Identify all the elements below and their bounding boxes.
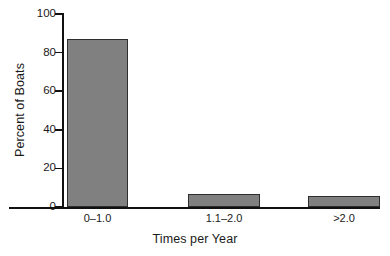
- y-axis-tick-mark: [55, 13, 62, 15]
- y-axis-tick-mark: [55, 90, 62, 92]
- y-tick-label: 100: [30, 8, 56, 19]
- x-tick-label: >2.0: [294, 211, 390, 225]
- bar: [308, 196, 380, 207]
- y-tick-label: 40: [30, 124, 56, 135]
- y-tick-label: 20: [30, 162, 56, 173]
- x-axis-line: [9, 207, 380, 209]
- bar: [188, 194, 260, 208]
- bar: [67, 39, 128, 207]
- y-tick-label: 60: [30, 85, 56, 96]
- bar-chart: Percent of Boats 100 80 60 40 20 0 0–1.0…: [0, 0, 390, 256]
- plot-area: [62, 14, 380, 207]
- y-tick-label: 80: [30, 47, 56, 58]
- y-axis-tick-mark: [55, 168, 62, 170]
- x-axis-title: Times per Year: [0, 231, 390, 247]
- x-tick-label: 1.1–2.0: [174, 211, 274, 225]
- y-axis-tick-mark: [55, 52, 62, 54]
- x-tick-label: 0–1.0: [48, 211, 148, 225]
- y-axis-tick-mark: [55, 129, 62, 131]
